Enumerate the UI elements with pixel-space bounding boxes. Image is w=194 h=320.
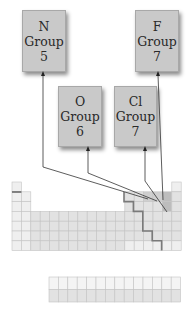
f-block-cell bbox=[58, 277, 67, 290]
table-cell bbox=[97, 241, 106, 251]
table-cell bbox=[12, 241, 21, 251]
table-cell bbox=[125, 241, 134, 251]
arrow-n bbox=[43, 75, 148, 199]
table-cell bbox=[115, 231, 124, 241]
table-cell bbox=[31, 211, 40, 221]
table-cell bbox=[144, 241, 153, 251]
table-cell bbox=[59, 211, 68, 221]
table-cell bbox=[50, 231, 59, 241]
table-cell bbox=[59, 241, 68, 251]
f-block-cell bbox=[152, 277, 161, 290]
f-block-cell bbox=[152, 290, 161, 303]
table-cell bbox=[134, 202, 143, 212]
f-block-cell bbox=[96, 277, 105, 290]
table-cell bbox=[97, 221, 106, 231]
table-cell bbox=[115, 211, 124, 221]
f-block-grid bbox=[49, 277, 181, 302]
table-cell bbox=[162, 241, 171, 251]
table-cell bbox=[31, 221, 40, 231]
table-cell bbox=[21, 231, 30, 241]
table-cell bbox=[87, 241, 96, 251]
table-cell bbox=[68, 241, 77, 251]
table-cell bbox=[172, 231, 181, 241]
table-cell bbox=[172, 221, 181, 231]
table-cell bbox=[125, 211, 134, 221]
table-cell bbox=[144, 202, 153, 212]
table-cell bbox=[144, 211, 153, 221]
f-block-cell bbox=[171, 277, 180, 290]
f-block-cell bbox=[49, 277, 58, 290]
table-cell bbox=[106, 231, 115, 241]
f-block-cell bbox=[162, 277, 171, 290]
table-cell bbox=[21, 192, 30, 202]
table-cell bbox=[40, 211, 49, 221]
table-cell bbox=[87, 211, 96, 221]
f-block-cell bbox=[58, 290, 67, 303]
table-cell bbox=[97, 231, 106, 241]
table-cell bbox=[59, 231, 68, 241]
table-cell bbox=[162, 231, 171, 241]
table-cell bbox=[153, 221, 162, 231]
cell-f bbox=[162, 192, 171, 202]
table-cell bbox=[87, 231, 96, 241]
table-cell bbox=[78, 241, 87, 251]
cell-n bbox=[144, 192, 153, 202]
table-cell bbox=[40, 241, 49, 251]
f-block-cell bbox=[87, 290, 96, 303]
table-cell bbox=[78, 211, 87, 221]
f-block-cell bbox=[134, 277, 143, 290]
arrowheads bbox=[41, 71, 160, 151]
table-cell bbox=[12, 192, 21, 202]
table-cell bbox=[134, 231, 143, 241]
table-cell bbox=[97, 211, 106, 221]
f-block-cell bbox=[68, 290, 77, 303]
table-cell bbox=[40, 231, 49, 241]
connector-arrows bbox=[43, 75, 167, 212]
table-cell bbox=[172, 192, 181, 202]
table-cell bbox=[59, 221, 68, 231]
f-block-cell bbox=[171, 290, 180, 303]
f-block-cell bbox=[68, 277, 77, 290]
table-cell bbox=[12, 182, 21, 192]
table-cell bbox=[172, 211, 181, 221]
arrow-f bbox=[158, 75, 163, 200]
table-cell bbox=[172, 202, 181, 212]
table-cell bbox=[172, 241, 181, 251]
table-cell bbox=[153, 211, 162, 221]
table-cell bbox=[50, 241, 59, 251]
f-block-cell bbox=[124, 277, 133, 290]
table-cell bbox=[153, 231, 162, 241]
table-cell bbox=[162, 211, 171, 221]
table-cell bbox=[21, 211, 30, 221]
table-cell bbox=[134, 241, 143, 251]
f-block-cell bbox=[77, 277, 86, 290]
f-block-cell bbox=[105, 277, 114, 290]
table-cell bbox=[106, 241, 115, 251]
table-cell bbox=[50, 221, 59, 231]
table-cell bbox=[115, 241, 124, 251]
f-block-cell bbox=[96, 290, 105, 303]
table-cell bbox=[12, 211, 21, 221]
table-cell bbox=[162, 221, 171, 231]
table-cell bbox=[144, 221, 153, 231]
table-cell bbox=[87, 221, 96, 231]
table-cell bbox=[78, 221, 87, 231]
table-cell bbox=[68, 211, 77, 221]
table-cell bbox=[12, 221, 21, 231]
table-cell bbox=[172, 182, 181, 192]
table-cell bbox=[125, 231, 134, 241]
table-cell bbox=[115, 221, 124, 231]
f-block-cell bbox=[77, 290, 86, 303]
table-cell bbox=[78, 231, 87, 241]
f-block-cell bbox=[105, 290, 114, 303]
table-cell bbox=[68, 231, 77, 241]
f-block-cell bbox=[115, 290, 124, 303]
table-cell bbox=[125, 221, 134, 231]
f-block-cell bbox=[162, 290, 171, 303]
table-cell bbox=[21, 241, 30, 251]
table-cell bbox=[12, 231, 21, 241]
f-block-cell bbox=[143, 290, 152, 303]
f-block-cell bbox=[124, 290, 133, 303]
table-cell bbox=[21, 221, 30, 231]
f-block-cell bbox=[134, 290, 143, 303]
